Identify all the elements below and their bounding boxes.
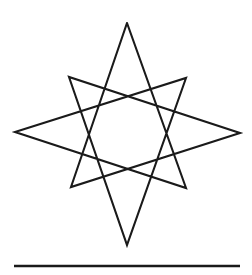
canvas-background [0,0,252,275]
star-figure-canvas [0,0,252,275]
